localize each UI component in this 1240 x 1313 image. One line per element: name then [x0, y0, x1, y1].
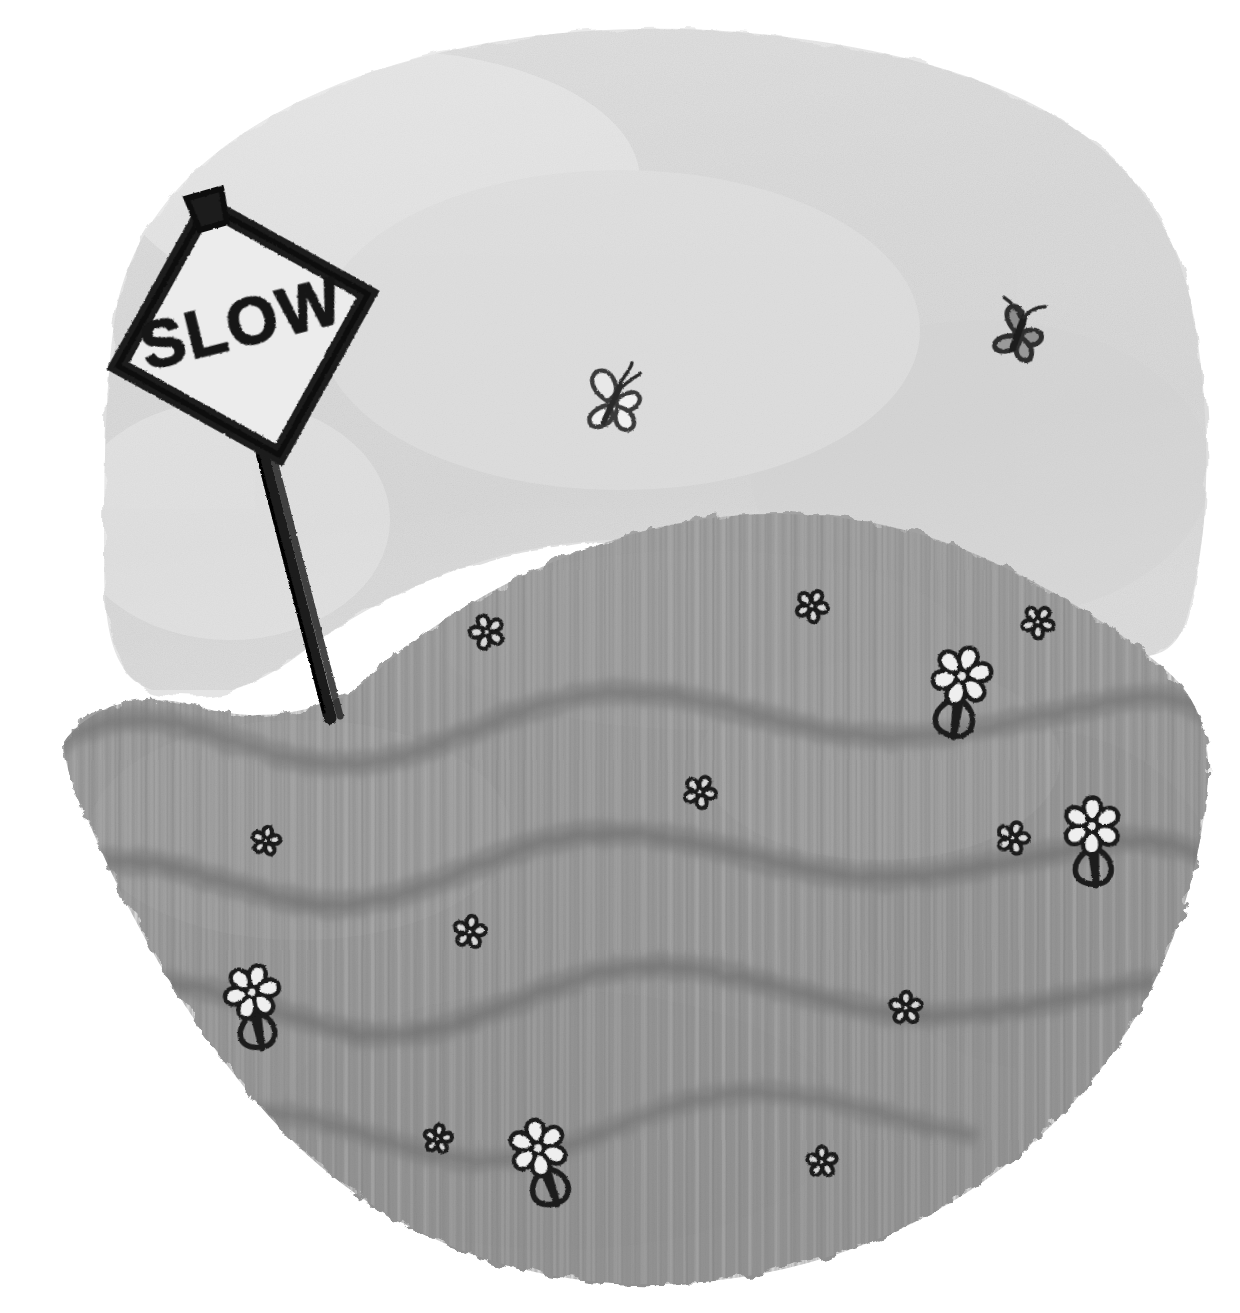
illustration-canvas: SLOW sign on a grassy hill [0, 0, 1240, 1313]
scene-svg: SLOW [0, 0, 1240, 1313]
